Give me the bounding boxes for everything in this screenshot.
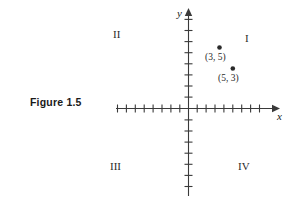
data-point-label-2: (5, 3): [218, 73, 239, 83]
data-point-label-1: (3, 5): [205, 52, 226, 62]
x-axis-label: x: [277, 110, 282, 122]
quadrant-label-iv: IV: [238, 160, 250, 172]
y-axis-label: y: [177, 7, 182, 19]
figure-container: Figure 1.5: [0, 0, 297, 205]
quadrant-label-iii: III: [110, 160, 121, 172]
quadrant-label-i: I: [245, 32, 249, 44]
x-axis: [116, 105, 280, 112]
data-point-1: [217, 45, 222, 50]
quadrant-label-ii: II: [113, 28, 120, 40]
coordinate-plane: [0, 0, 297, 205]
data-point-2: [231, 66, 236, 71]
y-axis: [185, 8, 192, 196]
